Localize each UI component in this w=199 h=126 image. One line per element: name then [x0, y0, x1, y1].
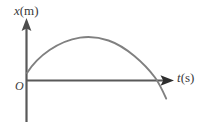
y-axis-label: x(m) — [14, 4, 39, 17]
y-axis-unit: (m) — [20, 3, 39, 18]
graph-canvas — [0, 0, 199, 126]
origin-label: O — [15, 80, 24, 92]
x-axis-unit: (s) — [181, 70, 195, 85]
physics-graph-figure: x(m) t(s) O — [0, 0, 199, 126]
x-axis-label: t(s) — [177, 71, 194, 84]
displacement-curve — [27, 37, 166, 99]
